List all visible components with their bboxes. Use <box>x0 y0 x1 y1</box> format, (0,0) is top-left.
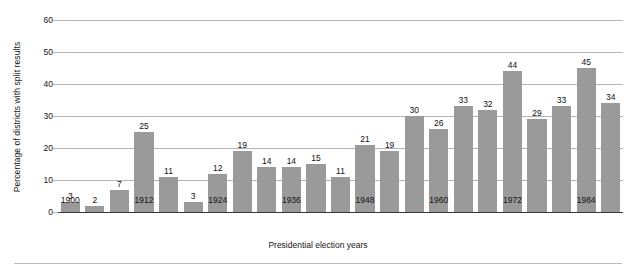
bar-value-label: 33 <box>459 95 468 105</box>
plot-area: 0102030405060 32725113121914141511211930… <box>58 20 623 212</box>
y-tick-label-20: 20 <box>44 143 53 153</box>
bar-value-label: 11 <box>336 166 345 176</box>
bar-value-label: 11 <box>164 166 173 176</box>
x-axis-title: Presidential election years <box>0 240 636 250</box>
bar: 33 <box>454 106 473 212</box>
bar-value-label: 19 <box>385 140 394 150</box>
bar-value-label: 32 <box>483 99 492 109</box>
bar-value-label: 33 <box>557 95 566 105</box>
bar: 29 <box>527 119 546 212</box>
bar: 14 <box>257 167 276 212</box>
bar: 19 <box>380 151 399 212</box>
bar: 11 <box>331 177 350 212</box>
bar-value-label: 26 <box>434 118 443 128</box>
bar: 30 <box>405 116 424 212</box>
bar: 19 <box>233 151 252 212</box>
y-tick-label-10: 10 <box>44 175 53 185</box>
bar-value-label: 45 <box>581 57 590 67</box>
bar: 15 <box>306 164 325 212</box>
y-tick-label-0: 0 <box>48 207 53 217</box>
bar-value-label: 3 <box>191 191 196 201</box>
x-tick-label-1936: 1936 <box>282 195 301 205</box>
x-tick-label-1948: 1948 <box>356 195 375 205</box>
bar: 7 <box>110 190 129 212</box>
bar-value-label: 2 <box>92 195 97 205</box>
bar-value-label: 14 <box>262 156 271 166</box>
bar-value-label: 34 <box>606 92 615 102</box>
bars-group: 3272511312191414151121193026333244293345… <box>58 20 623 212</box>
bar: 3 <box>184 202 203 212</box>
footer-divider <box>14 263 622 264</box>
y-tick-label-30: 30 <box>44 111 53 121</box>
bar: 32 <box>478 110 497 212</box>
x-tick-label-1972: 1972 <box>503 195 522 205</box>
x-tick-label-1900: 1900 <box>61 195 80 205</box>
bar: 34 <box>601 103 620 212</box>
x-tick-label-1924: 1924 <box>208 195 227 205</box>
bar: 11 <box>159 177 178 212</box>
bar: 2 <box>85 206 104 212</box>
y-tick-label-60: 60 <box>44 15 53 25</box>
y-tick-label-40: 40 <box>44 79 53 89</box>
bar: 14 <box>282 167 301 212</box>
bar-value-label: 7 <box>117 179 122 189</box>
gridline-0: 0 <box>58 212 623 213</box>
bar-value-label: 15 <box>311 153 320 163</box>
y-tick-mark-0 <box>53 212 58 213</box>
bar: 12 <box>208 174 227 212</box>
y-tick-label-50: 50 <box>44 47 53 57</box>
bar-chart-figure: Percentage of districts with split resul… <box>0 0 636 275</box>
bar: 45 <box>577 68 596 212</box>
bar-value-label: 29 <box>532 108 541 118</box>
bar-value-label: 21 <box>360 134 369 144</box>
bar-value-label: 12 <box>213 163 222 173</box>
bar-value-label: 14 <box>287 156 296 166</box>
bar-value-label: 30 <box>409 105 418 115</box>
x-tick-label-1984: 1984 <box>577 195 596 205</box>
bar-value-label: 25 <box>139 121 148 131</box>
y-axis-title: Percentage of districts with split resul… <box>12 12 22 222</box>
bar-value-label: 19 <box>238 140 247 150</box>
x-tick-label-1960: 1960 <box>429 195 448 205</box>
bar-value-label: 44 <box>508 60 517 70</box>
bar: 44 <box>503 71 522 212</box>
x-tick-label-1912: 1912 <box>135 195 154 205</box>
bar: 33 <box>552 106 571 212</box>
